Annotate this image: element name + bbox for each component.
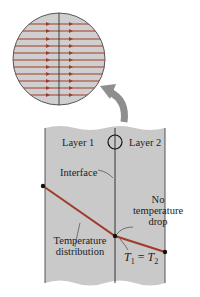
- magnified-interface-view: [10, 10, 110, 108]
- equals-sign: =: [135, 250, 148, 264]
- t2-subscript: 2: [154, 257, 158, 266]
- magnify-arrow-icon: [100, 84, 124, 122]
- t1-symbol: T: [124, 250, 131, 264]
- no-drop-line3: drop: [128, 216, 188, 227]
- temp-dist-line1: Temperature: [48, 235, 112, 246]
- no-drop-line1: No: [128, 194, 188, 205]
- no-drop-line2: temperature: [128, 205, 188, 216]
- temp-dist-line2: distribution: [48, 246, 112, 257]
- no-temperature-drop-label: No temperature drop: [128, 194, 188, 227]
- layer2-label: Layer 2: [129, 137, 161, 148]
- t1-equals-t2-label: T1 = T2: [124, 252, 158, 267]
- interface-label: Interface: [60, 167, 97, 178]
- temperature-distribution-label: Temperature distribution: [48, 235, 112, 257]
- layer1-label: Layer 1: [62, 137, 94, 148]
